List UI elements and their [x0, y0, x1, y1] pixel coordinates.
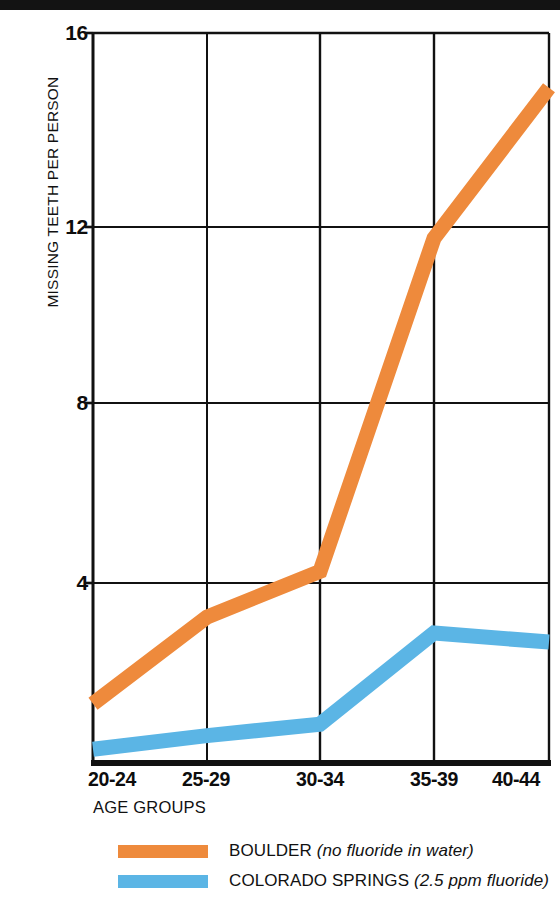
legend-swatch-boulder [118, 845, 208, 858]
legend-item-boulder: BOULDER (no fluoride in water) [118, 838, 560, 864]
legend-label-colorado-springs: COLORADO SPRINGS (2.5 ppm fluoride) [229, 871, 549, 891]
x-tick-20-24: 20-24 [88, 768, 136, 791]
legend-label-colorado-springs-note: (2.5 ppm fluoride) [414, 871, 549, 890]
x-tick-30-34: 30-34 [296, 768, 344, 791]
legend-label-boulder-note: (no fluoride in water) [317, 841, 474, 860]
legend-item-colorado-springs: COLORADO SPRINGS (2.5 ppm fluoride) [118, 868, 560, 894]
x-axis-tick-labels: 20-24 25-29 30-34 35-39 40-44 [0, 768, 560, 798]
line-chart-figure: MISSING TEETH PER PERSON 16 12 8 4 [0, 0, 560, 906]
legend-swatch-colorado-springs [118, 875, 208, 888]
legend-label-boulder-name: BOULDER [229, 841, 312, 860]
x-tick-35-39: 35-39 [410, 768, 458, 791]
plot-area [0, 0, 560, 790]
x-tick-40-44: 40-44 [492, 768, 540, 791]
chart-legend: BOULDER (no fluoride in water) COLORADO … [118, 838, 560, 898]
x-tick-25-29: 25-29 [182, 768, 230, 791]
legend-label-boulder: BOULDER (no fluoride in water) [229, 841, 474, 861]
x-axis-title: AGE GROUPS [93, 798, 206, 817]
legend-label-colorado-springs-name: COLORADO SPRINGS [229, 871, 409, 890]
